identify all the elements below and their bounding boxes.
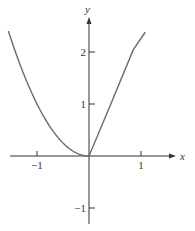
x-tick-label: 1 (138, 159, 144, 171)
y-ticks: 21−1 (74, 46, 95, 214)
curve-left-branch (8, 31, 89, 156)
x-ticks: −11 (31, 151, 144, 171)
y-tick-label: 1 (81, 98, 87, 110)
x-axis-label: x (179, 150, 185, 162)
y-tick-label: −1 (74, 202, 86, 214)
curve-right-branch (89, 32, 145, 156)
y-axis-label: y (84, 3, 90, 15)
function-graph: x y −11 21−1 (0, 0, 195, 231)
x-axis-arrow-icon (169, 154, 176, 159)
x-tick-label: −1 (31, 159, 43, 171)
data-series (8, 31, 145, 156)
y-axis-arrow-icon (87, 17, 92, 24)
y-tick-label: 2 (81, 46, 87, 58)
